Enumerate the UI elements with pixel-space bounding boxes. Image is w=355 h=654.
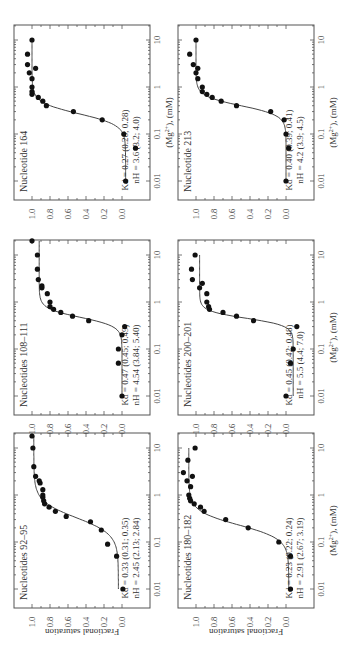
data-point [204,291,209,296]
y-tick-label: 0.0 [281,617,291,628]
x-axis-label: (Mg2+), (mM) [328,97,338,147]
data-point [204,92,209,97]
data-point [286,146,291,151]
x-tick-label: 10 [152,444,162,453]
data-point [100,117,105,122]
y-axis-label: Fractional saturation [44,627,119,637]
hill-fit-curve [200,255,294,396]
x-tick-label: 0.1 [152,129,162,140]
x-tick-label: 10 [152,251,162,260]
data-point [119,393,124,398]
x-tick-label: 0.01 [152,582,162,597]
y-tick-label: 0.2 [263,209,273,220]
x-tick-label: 10 [316,36,326,45]
y-tick-label: 0.6 [227,209,237,220]
data-point [29,433,34,438]
data-point [200,89,205,94]
y-tick-label: 0.2 [99,209,109,220]
data-point [29,238,34,243]
data-point [47,505,52,510]
data-point [283,393,288,398]
data-point [187,52,192,57]
hill-fit-curve [32,40,126,181]
x-tick-label: 0.1 [152,344,162,355]
data-point [45,291,50,296]
data-point [202,509,207,514]
nh-annotation: nH = 2.45 (2.13; 2.84) [131,518,141,599]
data-point [133,146,138,151]
data-point [193,252,198,257]
data-point [36,95,41,100]
data-point [283,131,288,136]
data-point [190,277,195,282]
panel-title: Nucleotides 92–95 [18,525,29,600]
data-point [29,89,34,94]
x-tick-label: 1 [316,300,326,304]
panel-nucleotide-213: 0.010.11100.00.20.40.60.81.0Nucleotide 2… [178,25,338,219]
y-tick-label: 1.0 [191,617,201,628]
data-point [200,84,205,89]
data-point [31,464,36,469]
data-point [99,527,104,532]
data-point [195,76,200,81]
data-point [219,99,224,104]
x-tick-label: 0.1 [152,537,162,548]
data-point [116,346,121,351]
y-tick-label: 0.4 [245,208,255,219]
panel-nucleotide-164: 0.010.11100.00.20.40.60.81.0Nucleotide 1… [14,25,174,219]
data-point [29,37,34,42]
x-tick-label: 0.01 [316,389,326,404]
y-tick-label: 0.8 [45,617,55,628]
x-tick-label: 0.1 [316,344,326,355]
y-tick-label: 0.8 [209,617,219,628]
data-point [204,299,209,304]
data-point [186,492,191,497]
data-point [25,62,30,67]
kd-annotation: Kd = 0.33 (0.31; 0.35) [120,518,130,599]
data-point [114,554,119,559]
data-point [268,109,273,114]
x-tick-label: 0.1 [316,537,326,548]
data-point [288,554,293,559]
data-point [251,318,256,323]
data-point [105,542,110,547]
panel-nucleotides-200-201: 0.010.11100.00.20.40.60.81.0Nucleotides … [178,240,338,434]
data-point [223,517,228,522]
panel-title: Nucleotides 180–182 [182,515,193,600]
data-point [64,514,69,519]
data-point [206,304,211,309]
data-point [193,70,198,75]
x-tick-label: 1 [316,493,326,497]
data-point [53,509,58,514]
data-point [40,487,45,492]
x-tick-label: 1 [152,85,162,89]
data-point [30,445,35,450]
data-point [198,505,203,510]
data-point [200,281,205,286]
data-point [36,277,41,282]
y-tick-label: 0.0 [117,617,127,628]
data-point [40,99,45,104]
data-point [189,267,194,272]
hill-fit-curve [39,241,122,396]
y-tick-label: 0.6 [227,617,237,628]
data-point [29,76,34,81]
hill-fit-curve [189,448,289,589]
data-point [185,458,190,463]
data-point [88,519,93,524]
y-tick-label: 0.4 [245,616,255,627]
y-tick-label: 0.4 [81,616,91,627]
data-point [58,310,63,315]
data-point [288,586,293,591]
nh-annotation: nH = 4.54 (3.84; 5.40) [131,325,141,406]
y-tick-label: 0.0 [117,209,127,220]
data-point [188,484,193,489]
data-point [123,178,128,183]
panel-title: Nucleotides 200–201 [182,322,193,407]
x-axis-label: (Mg2+), (mM) [164,97,174,147]
y-tick-label: 0.8 [209,209,219,220]
x-tick-label: 0.01 [316,174,326,189]
x-tick-label: 0.01 [152,174,162,189]
x-tick-label: 1 [316,85,326,89]
data-point [246,525,251,530]
